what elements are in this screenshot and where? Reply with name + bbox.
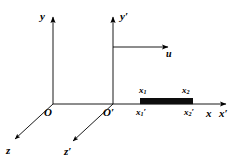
x2-prime-mark: ′	[192, 107, 195, 117]
velocity-label: u	[166, 49, 172, 59]
x-prime-axis-label: x′	[219, 108, 228, 119]
rod-bar	[140, 98, 193, 104]
y-axis-label: y	[40, 11, 45, 22]
rod-left-endpoint-label-primed: x1′	[136, 108, 146, 117]
origin-prime-label: O′	[103, 107, 114, 118]
rod-right-endpoint-label-unprimed: x2	[182, 86, 190, 95]
origin-label: O	[44, 107, 52, 118]
physics-diagram-relativity-frames: y y′ z z′ x x′ O O′ u x1 x2 x1′ x2′	[0, 0, 238, 163]
x-axis-label: x	[206, 108, 212, 119]
rod-right-endpoint-label-primed: x2′	[184, 108, 194, 117]
diagram-canvas	[0, 0, 238, 163]
x1-prime-mark: ′	[144, 107, 147, 117]
z-axis-label: z	[6, 145, 10, 156]
z-prime-axis-label: z′	[64, 146, 71, 157]
x2-subscript: 2	[187, 89, 190, 95]
y-prime-axis-label: y′	[120, 11, 128, 22]
rod-left-endpoint-label-unprimed: x1	[139, 86, 147, 95]
x1-subscript: 1	[144, 89, 147, 95]
